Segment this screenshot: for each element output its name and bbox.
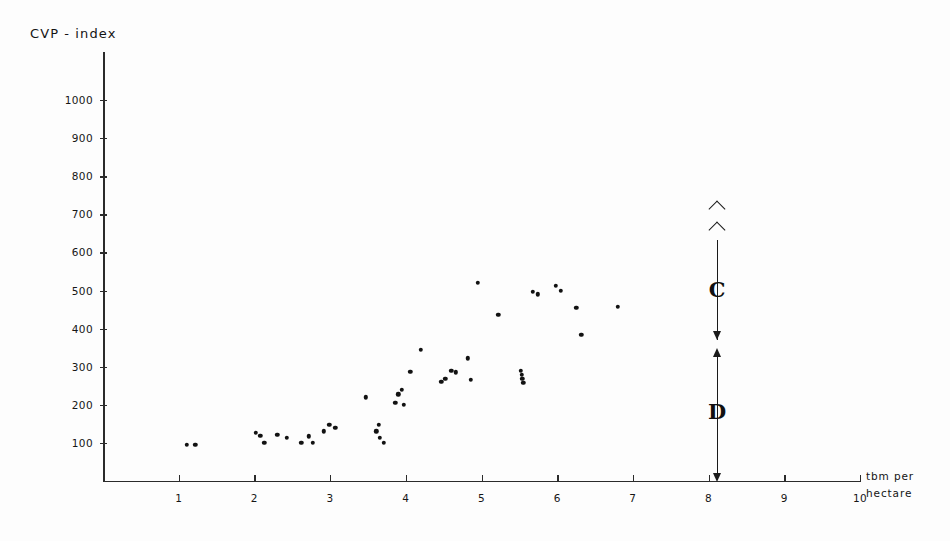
bracket-line-c	[717, 240, 719, 340]
scatter-point	[616, 305, 620, 309]
x-axis-tick-label: 6	[545, 492, 569, 504]
x-axis-tick	[482, 475, 483, 482]
scatter-point	[299, 441, 303, 445]
scatter-point	[401, 403, 405, 407]
cd-bracket-annotation: C D	[0, 0, 950, 541]
arrow-up-icon-d	[713, 348, 721, 357]
scatter-point	[393, 401, 397, 405]
scatter-point	[466, 356, 470, 360]
y-axis-tick	[100, 329, 107, 330]
bracket-line-d	[717, 356, 719, 478]
y-axis-tick	[100, 100, 107, 101]
scatter-point	[396, 392, 400, 396]
scatter-point	[333, 425, 337, 429]
y-axis-line	[103, 52, 105, 482]
y-axis-tick	[100, 405, 107, 406]
annotation-label-d: D	[702, 399, 732, 424]
scatter-point	[307, 434, 311, 438]
x-axis-tick-label: 3	[318, 492, 342, 504]
x-axis-tick	[633, 475, 634, 482]
scatter-point	[327, 422, 331, 426]
x-axis-tick	[406, 475, 407, 482]
arrow-down-icon-c	[713, 331, 721, 340]
scatter-chart-figure: CVP - index 1002003004005006007008009001…	[0, 0, 950, 541]
x-axis-tick-label: 2	[242, 492, 266, 504]
x-axis-tick	[254, 475, 255, 482]
scatter-point	[521, 380, 525, 384]
scatter-point	[376, 422, 380, 426]
scatter-point	[363, 395, 367, 399]
scatter-point	[275, 432, 279, 436]
x-axis-tick-label: 7	[621, 492, 645, 504]
scatter-point	[193, 443, 197, 447]
y-axis-tick-label: 900	[53, 132, 93, 144]
y-axis-tick-label: 100	[53, 437, 93, 449]
x-axis-tick-label: 4	[394, 492, 418, 504]
scatter-point	[258, 434, 262, 438]
x-axis-title-line1: tbm per	[866, 468, 914, 485]
y-axis-tick-label: 1000	[53, 94, 93, 106]
x-axis-tick	[860, 475, 861, 482]
scatter-point	[553, 284, 557, 288]
y-axis-tick-label: 800	[53, 170, 93, 182]
x-axis-tick-label: 5	[470, 492, 494, 504]
scatter-point	[185, 443, 189, 447]
y-axis-title: CVP - index	[30, 26, 116, 41]
y-axis-tick	[100, 252, 107, 253]
scatter-point	[574, 305, 578, 309]
y-axis-tick-label: 500	[53, 285, 93, 297]
scatter-point	[322, 429, 326, 433]
x-axis-title: tbm per hectare	[866, 468, 914, 502]
scatter-point	[408, 369, 412, 373]
scatter-point	[419, 347, 423, 351]
x-axis-title-line2: hectare	[866, 485, 914, 502]
scatter-point	[378, 436, 382, 440]
x-axis-tick-label: 1	[167, 492, 191, 504]
y-axis-tick	[100, 367, 107, 368]
y-axis-tick	[100, 443, 107, 444]
scatter-point	[476, 281, 480, 285]
y-axis-tick	[100, 291, 107, 292]
chevron-up-icon-outer	[709, 201, 726, 218]
x-axis-tick	[179, 475, 180, 482]
scatter-point	[382, 441, 386, 445]
scatter-point	[262, 441, 266, 445]
y-axis-tick-label: 200	[53, 399, 93, 411]
y-axis-tick-label: 600	[53, 246, 93, 258]
scatter-point	[374, 429, 378, 433]
chevron-up-icon-inner	[709, 222, 726, 239]
scatter-point	[469, 378, 473, 382]
y-axis-tick-label: 400	[53, 323, 93, 335]
x-axis-tick	[557, 475, 558, 482]
y-axis-tick-label: 700	[53, 208, 93, 220]
scatter-point	[535, 292, 539, 296]
x-axis-tick	[784, 475, 785, 482]
scatter-point	[454, 370, 458, 374]
y-axis-tick-label: 300	[53, 361, 93, 373]
y-axis-tick	[100, 176, 107, 177]
scatter-point	[400, 387, 404, 391]
x-axis-tick-label: 9	[772, 492, 796, 504]
y-axis-tick	[100, 138, 107, 139]
scatter-point	[496, 312, 500, 316]
x-axis-tick	[709, 475, 710, 482]
scatter-point	[559, 288, 563, 292]
x-axis-tick	[330, 475, 331, 482]
scatter-point	[285, 436, 289, 440]
annotation-label-c: C	[702, 277, 732, 302]
x-axis-tick-label: 8	[697, 492, 721, 504]
scatter-point	[310, 441, 314, 445]
y-axis-tick	[100, 214, 107, 215]
scatter-point	[579, 333, 583, 337]
scatter-point	[443, 377, 447, 381]
